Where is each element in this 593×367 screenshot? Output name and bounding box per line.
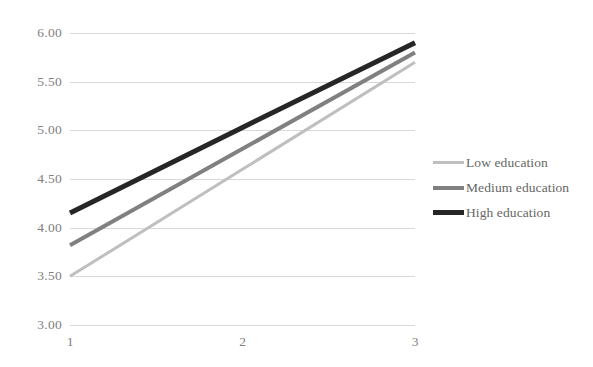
- x-tick-label: 3: [395, 334, 435, 349]
- legend-label: Medium education: [466, 180, 569, 195]
- legend-line-swatch-icon: [433, 210, 464, 215]
- x-tick-label: 2: [223, 334, 263, 349]
- legend-line-swatch-icon: [433, 186, 464, 190]
- legend-item[interactable]: Low education: [433, 150, 591, 175]
- line-chart: 6.005.505.004.504.003.503.00 123 Low edu…: [0, 0, 593, 367]
- legend-label: Low education: [466, 155, 548, 170]
- x-tick-label: 1: [50, 334, 90, 349]
- legend-line-swatch-icon: [433, 161, 464, 164]
- legend-label: High education: [466, 205, 550, 220]
- legend-item[interactable]: Medium education: [433, 175, 591, 200]
- chart-legend: Low educationMedium educationHigh educat…: [433, 150, 591, 225]
- legend-item[interactable]: High education: [433, 200, 591, 225]
